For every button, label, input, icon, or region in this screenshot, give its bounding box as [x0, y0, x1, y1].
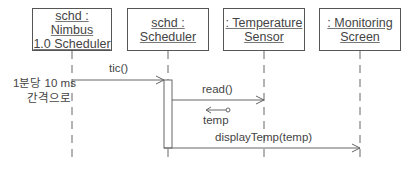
- message-tic: tic(): [109, 62, 128, 74]
- object-monitoring-screen: : Monitoring Screen: [319, 8, 401, 51]
- object-temperature-sensor: : Temperature Sensor: [223, 8, 305, 51]
- activation-bar: [164, 80, 172, 148]
- object-label: schd : Scheduler: [128, 16, 208, 44]
- message-read: read(): [202, 83, 233, 95]
- note-line-2: 간격으로: [27, 89, 71, 105]
- object-label: : Temperature Sensor: [226, 16, 303, 44]
- message-temp-return: temp: [203, 114, 229, 126]
- note-line-1: 1분당 10 ms: [13, 74, 76, 90]
- object-nimbus-scheduler: schd : Nimbus 1.0 Scheduler: [32, 8, 112, 51]
- object-scheduler: schd : Scheduler: [127, 8, 209, 51]
- message-display-temp: displayTemp(temp): [215, 131, 312, 143]
- object-label: : Monitoring Screen: [327, 16, 392, 44]
- object-label: schd : Nimbus 1.0 Scheduler: [33, 9, 111, 51]
